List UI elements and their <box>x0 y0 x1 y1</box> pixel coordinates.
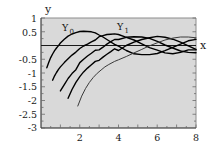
y-tick-label-neg1: -1 <box>28 68 37 79</box>
y-tick-label-0p5: 0.5 <box>22 27 37 38</box>
annotation-y0-base: Y <box>61 22 69 33</box>
x-axis-label: x <box>200 39 207 52</box>
y-tick-label-neg2: -2 <box>28 95 37 106</box>
y-tick-label-neg3: -3 <box>28 122 37 133</box>
annotation-y0-subscript: 0 <box>70 28 74 36</box>
annotation-y1-subscript: 1 <box>125 27 129 35</box>
x-tick-label-6: 6 <box>154 132 160 143</box>
y-tick-label-neg0p5: -0.5 <box>19 54 37 65</box>
y-tick-label-neg2p5: -2.5 <box>19 109 37 120</box>
x-tick-label-2: 2 <box>77 132 83 143</box>
annotation-y1-base: Y <box>116 21 124 32</box>
x-tick-label-4: 4 <box>115 132 121 143</box>
y-tick-label-neg1p5: -1.5 <box>19 81 37 92</box>
x-tick-label-8: 8 <box>193 132 199 143</box>
y-tick-label-1: 1 <box>31 13 37 24</box>
bessel-plot-figure: 1 0.5 -0.5 -1 -1.5 -2 -2.5 -3 2 4 6 8 y … <box>0 0 209 145</box>
y-axis-label: y <box>44 3 52 16</box>
